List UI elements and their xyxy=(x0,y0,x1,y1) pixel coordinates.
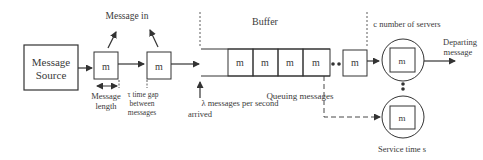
queueing-diagram: Message Source m m Message in Message le… xyxy=(0,0,483,160)
message-source-box: Message Source xyxy=(24,45,78,90)
message-glyph: m xyxy=(286,57,294,68)
server-2: m xyxy=(382,96,424,138)
time-gap-label-2: between xyxy=(130,99,155,108)
message-length-label-2: length xyxy=(95,101,117,111)
time-gap-label-3: messages xyxy=(128,108,156,117)
server-ellipsis-dot xyxy=(401,87,405,91)
buffer-label: Buffer xyxy=(252,16,279,27)
service-time-label: Service time s xyxy=(378,144,426,154)
source-label-line2: Source xyxy=(36,69,67,81)
incoming-message-1: m xyxy=(94,52,118,79)
message-glyph: m xyxy=(155,61,163,72)
servers-label: c number of servers xyxy=(373,19,440,29)
message-glyph: m xyxy=(398,113,405,123)
message-glyph: m xyxy=(236,57,244,68)
message-in-arrow-1 xyxy=(108,32,116,48)
message-in-label: Message in xyxy=(105,11,148,21)
ellipsis-dot xyxy=(331,62,335,66)
server-1: m xyxy=(382,39,424,81)
ellipsis-dot xyxy=(337,62,341,66)
message-glyph: m xyxy=(351,57,359,68)
server-ellipsis-dot xyxy=(401,82,405,86)
time-gap-label-1: τ time gap xyxy=(128,90,159,99)
source-label-line1: Message xyxy=(32,56,71,68)
message-glyph: m xyxy=(398,56,405,66)
message-length-label-1: Message xyxy=(91,91,121,101)
departing-label-1: Departing xyxy=(443,37,478,47)
message-glyph: m xyxy=(261,57,269,68)
message-in-arrow-2 xyxy=(150,30,158,47)
message-glyph: m xyxy=(102,61,110,72)
incoming-message-2: m xyxy=(147,52,171,79)
buffer-queue: m m m m m xyxy=(201,49,367,76)
arrival-rate-label-2: arrived xyxy=(188,109,213,119)
departing-label-2: message xyxy=(444,47,473,57)
message-glyph: m xyxy=(312,57,320,68)
